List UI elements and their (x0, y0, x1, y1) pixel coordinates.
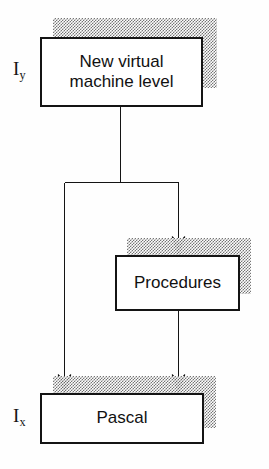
level-label-iy: Iy (13, 58, 25, 80)
node-new-virtual-machine-level[interactable]: New virtual machine level (40, 37, 203, 107)
node-pascal[interactable]: Pascal (40, 393, 204, 444)
level-label-ix-base: I (13, 405, 19, 426)
node-vm-label: New virtual machine level (66, 52, 178, 92)
level-label-iy-subscript: y (20, 68, 26, 82)
node-procedures-label: Procedures (130, 273, 225, 293)
level-label-ix: Ix (13, 405, 25, 427)
node-pascal-label: Pascal (92, 408, 151, 428)
diagram-canvas: New virtual machine level Procedures Pas… (0, 0, 269, 469)
level-label-iy-base: I (13, 58, 19, 79)
level-label-ix-subscript: x (20, 415, 26, 429)
node-procedures[interactable]: Procedures (115, 255, 240, 311)
